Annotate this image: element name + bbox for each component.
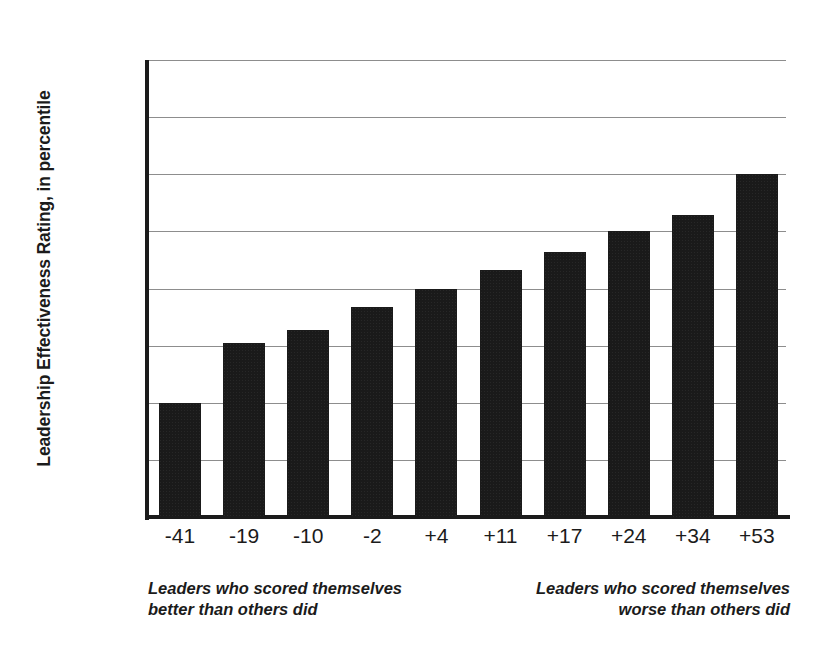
x-axis-tick-labels: -41-19-10-2+4+11+17+24+34+53 <box>145 524 790 558</box>
x-axis-tick-label: +11 <box>469 524 533 548</box>
bar <box>544 252 586 517</box>
bar <box>351 307 393 517</box>
caption-right-line2: worse than others did <box>455 599 790 620</box>
bar <box>736 174 778 517</box>
caption-left: Leaders who scored themselves better tha… <box>148 578 478 620</box>
caption-left-line2: better than others did <box>148 599 478 620</box>
bar <box>223 343 265 517</box>
x-axis-tick-label: +17 <box>533 524 597 548</box>
bar <box>159 403 201 517</box>
x-axis-tick-label: -19 <box>212 524 276 548</box>
bar <box>672 215 714 517</box>
x-axis-tick-label: +34 <box>661 524 725 548</box>
x-axis-tick-label: +4 <box>404 524 468 548</box>
bar <box>415 289 457 518</box>
caption-left-line1: Leaders who scored themselves <box>148 578 478 599</box>
caption-right-line1: Leaders who scored themselves <box>455 578 790 599</box>
x-axis-tick-label: +53 <box>725 524 789 548</box>
bar-chart: Leadership Effectiveness Rating, in perc… <box>0 0 824 657</box>
x-axis-tick-label: -10 <box>276 524 340 548</box>
caption-right: Leaders who scored themselves worse than… <box>455 578 790 620</box>
bars-layer <box>145 60 790 517</box>
bar <box>608 231 650 517</box>
bar <box>480 270 522 517</box>
bar <box>287 330 329 517</box>
x-axis-tick-label: -2 <box>340 524 404 548</box>
x-axis-tick-label: +24 <box>597 524 661 548</box>
y-axis-title: Leadership Effectiveness Rating, in perc… <box>34 29 55 529</box>
x-axis-tick-label: -41 <box>148 524 212 548</box>
